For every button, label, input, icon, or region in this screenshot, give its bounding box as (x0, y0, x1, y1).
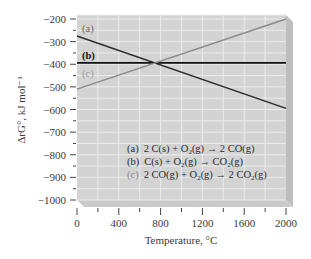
plot-side-panel (286, 15, 293, 207)
line-label-a: (a) (82, 23, 94, 35)
y-tick-label: −400 (43, 58, 66, 70)
plot-floor-panel (77, 200, 293, 207)
y-tick-label: −1000 (38, 194, 67, 206)
chart: −200−300−400−500−600−700−800−900−1000040… (0, 0, 311, 259)
y-tick-label: −900 (43, 171, 66, 183)
y-axis-title: ΔrG°, kJ mol⁻¹ (15, 76, 27, 144)
y-tick-label: −600 (43, 104, 66, 116)
x-tick-label: 0 (74, 217, 80, 229)
y-tick-label: −300 (43, 36, 66, 48)
y-tick-label: −700 (43, 126, 66, 138)
x-tick-label: 1600 (233, 217, 256, 229)
x-tick-label: 1200 (191, 217, 214, 229)
y-tick-label: −500 (43, 81, 66, 93)
y-tick-label: −200 (43, 13, 66, 25)
x-axis-title: Temperature, °C (145, 234, 218, 246)
line-label-b: (b) (82, 50, 95, 62)
x-tick-label: 400 (111, 217, 128, 229)
x-tick-label: 2000 (275, 217, 298, 229)
y-tick-label: −800 (43, 149, 66, 161)
line-label-c: (c) (82, 68, 94, 80)
x-tick-label: 800 (152, 217, 169, 229)
